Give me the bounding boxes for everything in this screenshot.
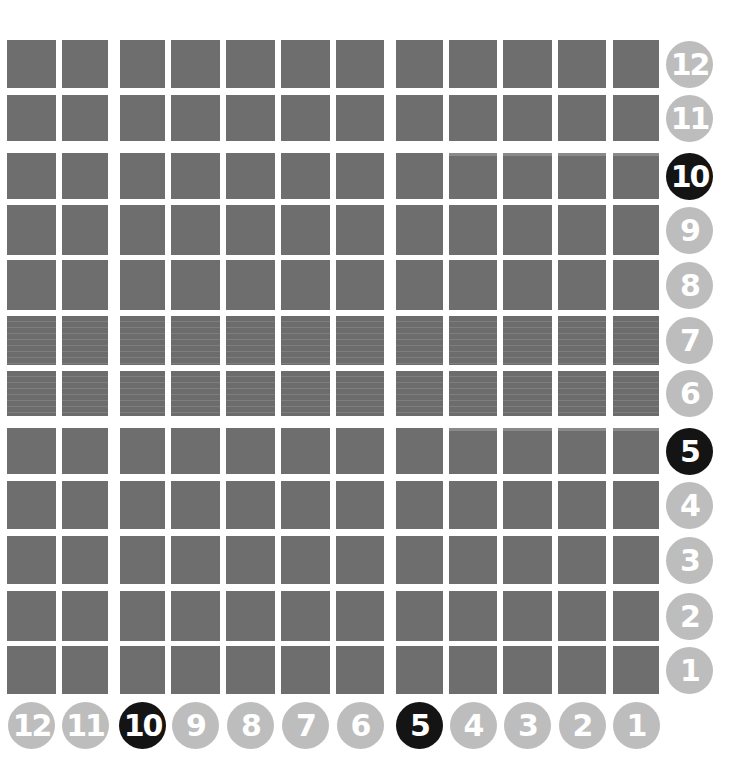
- row-label-badge[interactable]: 5: [666, 428, 713, 475]
- grid-tile[interactable]: [7, 428, 56, 474]
- grid-tile[interactable]: [171, 536, 220, 584]
- grid-tile[interactable]: [281, 316, 330, 365]
- grid-tile[interactable]: [396, 95, 443, 141]
- grid-tile[interactable]: [226, 205, 275, 255]
- grid-tile[interactable]: [7, 40, 56, 88]
- grid-tile[interactable]: [613, 153, 659, 199]
- grid-tile[interactable]: [558, 260, 606, 310]
- grid-tile[interactable]: [503, 260, 552, 310]
- row-label-badge[interactable]: 11: [666, 95, 713, 142]
- grid-tile[interactable]: [558, 428, 606, 474]
- grid-tile[interactable]: [171, 591, 220, 641]
- grid-tile[interactable]: [449, 646, 497, 694]
- grid-tile[interactable]: [171, 428, 220, 474]
- grid-tile[interactable]: [613, 428, 659, 474]
- grid-tile[interactable]: [62, 316, 108, 365]
- grid-tile[interactable]: [503, 95, 552, 141]
- grid-tile[interactable]: [226, 371, 275, 416]
- grid-tile[interactable]: [62, 371, 108, 416]
- grid-tile[interactable]: [613, 205, 659, 255]
- grid-tile[interactable]: [62, 260, 108, 310]
- grid-tile[interactable]: [7, 260, 56, 310]
- grid-tile[interactable]: [120, 40, 165, 88]
- grid-tile[interactable]: [120, 260, 165, 310]
- grid-tile[interactable]: [558, 205, 606, 255]
- row-label-badge[interactable]: 7: [666, 317, 713, 364]
- grid-tile[interactable]: [62, 205, 108, 255]
- grid-tile[interactable]: [281, 205, 330, 255]
- grid-tile[interactable]: [558, 481, 606, 529]
- grid-tile[interactable]: [226, 260, 275, 310]
- grid-tile[interactable]: [449, 428, 497, 474]
- grid-tile[interactable]: [336, 536, 384, 584]
- grid-tile[interactable]: [449, 40, 497, 88]
- grid-tile[interactable]: [449, 153, 497, 199]
- grid-tile[interactable]: [62, 481, 108, 529]
- grid-tile[interactable]: [120, 428, 165, 474]
- grid-tile[interactable]: [62, 40, 108, 88]
- grid-tile[interactable]: [7, 536, 56, 584]
- grid-tile[interactable]: [226, 153, 275, 199]
- grid-tile[interactable]: [396, 316, 443, 365]
- grid-tile[interactable]: [396, 371, 443, 416]
- grid-tile[interactable]: [281, 371, 330, 416]
- grid-tile[interactable]: [226, 591, 275, 641]
- grid-tile[interactable]: [226, 40, 275, 88]
- grid-tile[interactable]: [336, 591, 384, 641]
- grid-tile[interactable]: [171, 481, 220, 529]
- grid-tile[interactable]: [120, 205, 165, 255]
- grid-tile[interactable]: [7, 205, 56, 255]
- grid-tile[interactable]: [171, 371, 220, 416]
- grid-tile[interactable]: [449, 481, 497, 529]
- grid-tile[interactable]: [171, 260, 220, 310]
- grid-tile[interactable]: [613, 260, 659, 310]
- grid-tile[interactable]: [62, 536, 108, 584]
- grid-tile[interactable]: [62, 591, 108, 641]
- grid-tile[interactable]: [281, 428, 330, 474]
- grid-tile[interactable]: [396, 591, 443, 641]
- grid-tile[interactable]: [226, 536, 275, 584]
- grid-tile[interactable]: [503, 591, 552, 641]
- grid-tile[interactable]: [281, 153, 330, 199]
- grid-tile[interactable]: [226, 481, 275, 529]
- grid-tile[interactable]: [449, 95, 497, 141]
- grid-tile[interactable]: [120, 591, 165, 641]
- grid-tile[interactable]: [613, 591, 659, 641]
- grid-tile[interactable]: [558, 95, 606, 141]
- grid-tile[interactable]: [336, 316, 384, 365]
- grid-tile[interactable]: [336, 40, 384, 88]
- grid-tile[interactable]: [396, 428, 443, 474]
- grid-tile[interactable]: [613, 481, 659, 529]
- row-label-badge[interactable]: 4: [666, 482, 713, 529]
- grid-tile[interactable]: [396, 153, 443, 199]
- grid-tile[interactable]: [336, 646, 384, 694]
- grid-tile[interactable]: [336, 260, 384, 310]
- grid-tile[interactable]: [171, 40, 220, 88]
- column-label-badge[interactable]: 2: [559, 702, 606, 749]
- grid-tile[interactable]: [120, 153, 165, 199]
- grid-tile[interactable]: [396, 536, 443, 584]
- row-label-badge[interactable]: 9: [666, 207, 713, 254]
- grid-tile[interactable]: [226, 428, 275, 474]
- grid-tile[interactable]: [281, 536, 330, 584]
- grid-tile[interactable]: [558, 591, 606, 641]
- grid-tile[interactable]: [120, 536, 165, 584]
- grid-tile[interactable]: [449, 316, 497, 365]
- row-label-badge[interactable]: 3: [666, 537, 713, 584]
- grid-tile[interactable]: [171, 316, 220, 365]
- grid-tile[interactable]: [503, 205, 552, 255]
- grid-tile[interactable]: [171, 646, 220, 694]
- column-label-badge[interactable]: 11: [62, 702, 109, 749]
- grid-tile[interactable]: [281, 260, 330, 310]
- column-label-badge[interactable]: 12: [8, 702, 55, 749]
- grid-tile[interactable]: [503, 536, 552, 584]
- row-label-badge[interactable]: 2: [666, 593, 713, 640]
- grid-tile[interactable]: [449, 591, 497, 641]
- grid-tile[interactable]: [7, 371, 56, 416]
- grid-tile[interactable]: [503, 371, 552, 416]
- row-label-badge[interactable]: 10: [666, 153, 713, 200]
- column-label-badge[interactable]: 6: [337, 702, 384, 749]
- grid-tile[interactable]: [613, 536, 659, 584]
- grid-tile[interactable]: [449, 205, 497, 255]
- grid-tile[interactable]: [62, 646, 108, 694]
